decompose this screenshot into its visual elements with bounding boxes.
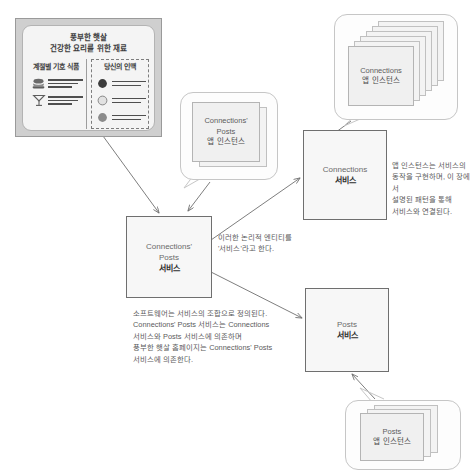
mockup-list-item — [94, 109, 147, 126]
mockup-column-connections-heading: 당신의 인맥 — [94, 61, 147, 71]
service-label-ko: 서비스 — [337, 330, 358, 341]
annotation-service-definition: 이러한 논리적 엔티티를 '서비스'라고 한다. — [218, 232, 338, 255]
instance-label-en-1: Connections' — [204, 116, 247, 127]
mockup-text-lines — [47, 96, 83, 105]
annotation-software-composition: 소프트웨어는 서비스의 조합으로 정의된다. Connections' Post… — [133, 308, 299, 365]
connections-posts-service-box[interactable]: Connections' Posts 서비스 — [126, 216, 212, 298]
mockup-list-item — [30, 92, 83, 109]
service-label-ko: 서비스 — [159, 263, 180, 274]
mockup-column-divider — [86, 59, 87, 129]
homepage-mockup[interactable]: 풍부한 햇살건강한 요리를 위한 재료 계절별 기호 식품 — [15, 18, 162, 137]
service-label-ko: 서비스 — [335, 175, 356, 186]
mockup-title: 풍부한 햇살건강한 요리를 위한 재료 — [23, 26, 154, 54]
wire-cp-instances-to-cp-service — [188, 182, 210, 211]
service-label-en-1: Connections — [323, 164, 367, 175]
mockup-text-lines — [111, 98, 147, 103]
service-label-en-1: Connections' — [146, 241, 192, 252]
mockup-text-lines — [47, 79, 83, 88]
mockup-column-seasonal-heading: 계절별 기호 식품 — [30, 61, 83, 71]
mockup-title-line1: 풍부한 햇살 — [70, 33, 108, 42]
annotation-app-instance: 앱 인스턴스는 서비스의 동작을 구현하며, 이 장에서 설명된 패턴을 통해 … — [392, 160, 474, 217]
instance-label-ko: 앱 인스턴스 — [207, 137, 244, 148]
avatar-medium-icon — [94, 112, 111, 123]
service-label-en-2: Posts — [159, 252, 179, 263]
mockup-screen: 풍부한 햇살건강한 요리를 위한 재료 계절별 기호 식품 — [22, 25, 155, 131]
burger-icon — [30, 78, 47, 90]
posts-service-box[interactable]: Posts 서비스 — [305, 288, 389, 372]
mockup-column-connections: 당신의 인맥 — [91, 59, 150, 129]
instance-label-ko: 앱 인스턴스 — [373, 437, 410, 448]
wire-cp-to-connections — [211, 178, 300, 240]
connections-posts-instances-bubble[interactable]: Connections' Posts 앱 인스턴스 — [180, 92, 278, 180]
mockup-column-seasonal: 계절별 기호 식품 — [28, 59, 85, 129]
mockup-text-lines — [111, 81, 147, 86]
connections-instances-bubble[interactable]: Connections 앱 인스턴스 — [334, 14, 458, 120]
mockup-text-lines — [111, 115, 147, 120]
stack-card-front: Connections' Posts 앱 인스턴스 — [192, 102, 260, 162]
instance-label-en-1: Posts — [383, 427, 402, 438]
stack-card-front: Connections 앱 인스턴스 — [348, 46, 414, 106]
connections-service-box[interactable]: Connections 서비스 — [303, 130, 387, 220]
wire-p-instances-to-p-service — [352, 374, 375, 399]
mockup-list-item — [94, 75, 147, 92]
instance-label-en-2: Posts — [217, 127, 236, 138]
avatar-light-icon — [94, 95, 111, 106]
mockup-title-line2: 건강한 요리를 위한 재료 — [50, 44, 128, 53]
cocktail-glass-icon — [30, 94, 47, 107]
stack-card-front: Posts 앱 인스턴스 — [360, 413, 424, 461]
instance-label-ko: 앱 인스턴스 — [362, 76, 399, 87]
mockup-list-item — [94, 92, 147, 109]
instance-label-en-1: Connections — [360, 66, 402, 77]
mockup-columns: 계절별 기호 식품 — [23, 59, 154, 129]
service-label-en-1: Posts — [337, 319, 357, 330]
avatar-dark-icon — [94, 78, 111, 89]
posts-instances-bubble[interactable]: Posts 앱 인스턴스 — [345, 400, 461, 470]
mockup-list-item — [30, 75, 83, 92]
wire-mockup-to-cp-service — [103, 136, 159, 213]
